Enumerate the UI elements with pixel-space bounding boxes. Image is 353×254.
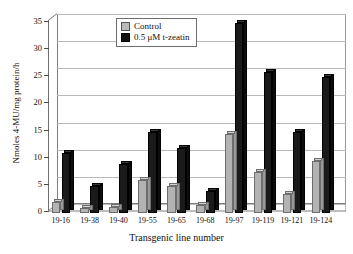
y-tick-mark xyxy=(44,184,49,185)
bar-control-19-55 xyxy=(138,180,147,213)
y-tick-mark xyxy=(44,75,49,76)
bar-side xyxy=(147,177,151,210)
gridline xyxy=(57,68,346,69)
legend-item-treatment: 0.5 μM t-zeatin xyxy=(121,32,190,43)
y-tick-mark xyxy=(44,21,49,22)
bar-face xyxy=(283,194,292,213)
bar-control-19-119 xyxy=(254,172,263,213)
bar-side xyxy=(262,169,266,210)
plot-area xyxy=(48,14,346,212)
y-axis-tick-labels: 05101520253035 xyxy=(22,0,42,254)
y-tick-mark xyxy=(44,157,49,158)
chart-legend: Control 0.5 μM t-zeatin xyxy=(116,18,197,47)
legend-item-control: Control xyxy=(121,21,190,32)
y-tick-label: 20 xyxy=(26,98,42,106)
bar-face xyxy=(109,207,118,214)
treatment-swatch-icon xyxy=(121,33,130,42)
y-tick-label: 0 xyxy=(26,207,42,215)
gridline xyxy=(57,41,346,42)
bar-chart: Nmoles 4-MU/mg protein/h 05101520253035 … xyxy=(0,0,353,254)
bar-side xyxy=(157,129,161,210)
bar-control-19-121 xyxy=(283,194,292,213)
legend-label-control: Control xyxy=(134,21,162,32)
legend-label-treatment: 0.5 μM t-zeatin xyxy=(134,32,190,43)
bar-side xyxy=(176,183,180,210)
bar-control-19-65 xyxy=(167,186,176,213)
y-tick-label: 35 xyxy=(26,17,42,25)
y-tick-label: 10 xyxy=(26,153,42,161)
bar-side xyxy=(99,183,103,210)
bar-side xyxy=(215,188,219,210)
gridline xyxy=(57,95,346,96)
y-tick-label: 30 xyxy=(26,44,42,52)
gridline xyxy=(57,14,346,15)
y-tick-label: 25 xyxy=(26,71,42,79)
y-tick-mark xyxy=(44,130,49,131)
bar-control-19-38 xyxy=(80,208,89,213)
y-tick-label: 15 xyxy=(26,126,42,134)
y-axis-title: Nmoles 4-MU/mg protein/h xyxy=(11,33,21,193)
bar-face xyxy=(167,186,176,213)
bar-face xyxy=(225,134,234,213)
bar-face xyxy=(254,172,263,213)
bar-face xyxy=(138,180,147,213)
y-tick-label: 5 xyxy=(26,180,42,188)
y-tick-mark xyxy=(44,48,49,49)
bar-side xyxy=(128,161,132,210)
bar-side xyxy=(330,74,334,210)
bar-control-19-40 xyxy=(109,207,118,214)
bar-face xyxy=(80,208,89,213)
bar-face xyxy=(312,161,321,213)
x-axis-title: Transgenic line number xyxy=(0,232,353,243)
bar-side xyxy=(186,145,190,210)
bar-side xyxy=(233,131,237,210)
bar-control-19-97 xyxy=(225,134,234,213)
control-swatch-icon xyxy=(121,22,130,31)
bar-side xyxy=(243,20,247,210)
y-tick-mark xyxy=(44,102,49,103)
bar-control-19-68 xyxy=(196,205,205,213)
x-tick-label: 19-124 xyxy=(301,216,341,225)
gridline xyxy=(57,123,346,124)
bar-control-19-16 xyxy=(52,202,61,213)
bar-face xyxy=(52,202,61,213)
bar-side xyxy=(70,150,74,210)
bar-side xyxy=(301,129,305,210)
bar-face xyxy=(196,205,205,213)
bar-side xyxy=(272,69,276,210)
bar-control-19-124 xyxy=(312,161,321,213)
bar-side xyxy=(320,158,324,210)
